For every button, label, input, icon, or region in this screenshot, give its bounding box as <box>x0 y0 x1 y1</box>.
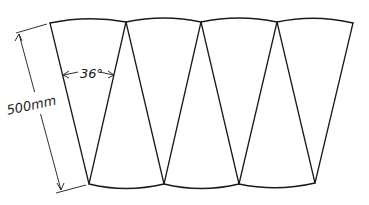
extension-line-top <box>16 24 47 33</box>
bottom-arc-2 <box>164 184 239 189</box>
bottom-arc-1 <box>89 184 164 189</box>
angle-label: 36° <box>80 66 103 81</box>
sector-strip-diagram: 500mm 36° <box>0 0 369 205</box>
top-arc-3 <box>201 18 277 22</box>
top-arc-4 <box>277 18 353 23</box>
zigzag-edges <box>50 22 353 184</box>
bottom-arc-3 <box>239 183 315 188</box>
top-arc-2 <box>126 18 201 22</box>
top-arc-1 <box>50 19 126 23</box>
